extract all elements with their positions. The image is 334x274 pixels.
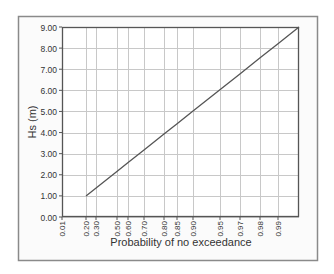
x-axis-label: Probability of no exceedance	[110, 236, 251, 248]
hs-probability-chart: 0.001.002.003.004.005.006.007.008.009.00…	[0, 0, 334, 274]
y-tick-label: 4.00	[40, 128, 57, 138]
y-tick-label: 2.00	[40, 170, 57, 180]
y-tick-label: 6.00	[40, 86, 57, 96]
x-tick-label: 0.85	[173, 220, 182, 236]
x-tick-label: 0.97	[236, 220, 245, 236]
x-tick-label: 0.99	[274, 220, 283, 236]
x-tick-label: 0.70	[140, 220, 149, 236]
chart-container: 0.001.002.003.004.005.006.007.008.009.00…	[0, 0, 334, 274]
y-tick-label: 7.00	[40, 65, 57, 75]
x-tick-label: 0.60	[124, 220, 133, 236]
y-tick-label: 3.00	[40, 149, 57, 159]
x-tick-label: 0.98	[256, 220, 265, 236]
x-tick-label: 0.30	[92, 220, 101, 236]
y-tick-label: 8.00	[40, 44, 57, 54]
x-tick-label: 0.80	[160, 220, 169, 236]
x-tick-label: 0.95	[216, 220, 225, 236]
y-tick-label: 5.00	[40, 107, 57, 117]
y-tick-label: 9.00	[40, 23, 57, 33]
x-tick-label: 0.20	[82, 220, 91, 236]
x-tick-label: 0.90	[189, 220, 198, 236]
y-axis-label: Hs (m)	[26, 106, 38, 139]
x-tick-label: 0.50	[113, 220, 122, 236]
y-tick-label: 1.00	[40, 191, 57, 201]
y-tick-label: 0.00	[40, 213, 57, 223]
x-tick-label: 0.01	[58, 220, 67, 236]
